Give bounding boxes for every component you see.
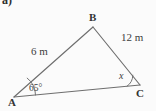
side-ab-line — [14, 27, 93, 97]
triangle-diagram-svg — [0, 0, 156, 111]
side-length-label-bc: 12 m — [121, 32, 143, 43]
angle-variable-label-c: x — [119, 71, 123, 81]
geometry-figure-panel: a) A B C 6 m 12 m 65° x — [0, 0, 156, 111]
angle-arc-at-c — [127, 75, 133, 86]
side-length-label-ab: 6 m — [31, 46, 48, 57]
vertex-label-b: B — [89, 12, 96, 23]
angle-measure-label-a: 65° — [29, 84, 42, 94]
vertex-label-c: C — [136, 88, 144, 99]
vertex-label-a: A — [8, 97, 16, 108]
